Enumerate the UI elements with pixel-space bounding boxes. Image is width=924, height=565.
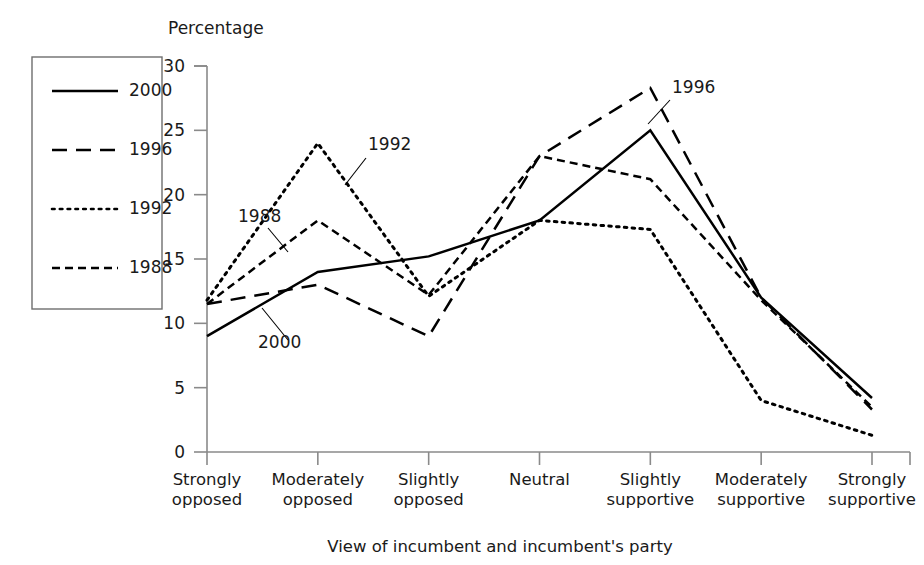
y-tick-label-5: 5: [174, 378, 185, 398]
series-line-1988: [207, 156, 872, 407]
y-tick-label-30: 30: [163, 56, 185, 76]
y-axis-title: Percentage: [168, 18, 264, 38]
y-tick-label-0: 0: [174, 442, 185, 462]
chart-axes: [194, 66, 910, 465]
annotation-label-1996: 1996: [672, 77, 715, 97]
annotation-leader-1992: [345, 158, 366, 185]
data-series-group: [207, 88, 872, 435]
annotation-label-1992: 1992: [368, 134, 411, 154]
series-line-2000: [207, 130, 872, 398]
x-tick-label-1: Moderatelyopposed: [271, 470, 364, 509]
x-axis-ticks: [207, 452, 910, 465]
y-tick-label-25: 25: [163, 120, 185, 140]
x-tick-label-4: Slightlysupportive: [606, 470, 694, 509]
annotation-label-1988: 1988: [238, 206, 281, 226]
x-tick-label-6: Stronglysupportive: [828, 470, 916, 509]
x-tick-label-5: Moderatelysupportive: [715, 470, 808, 509]
legend-label-1996: 1996: [129, 139, 172, 159]
x-tick-label-2: Slightlyopposed: [393, 470, 463, 509]
x-axis-tick-labels: StronglyopposedModeratelyopposedSlightly…: [172, 470, 916, 509]
x-tick-label-3: Neutral: [509, 470, 570, 489]
series-line-1996: [207, 88, 872, 410]
chart-canvas: Percentage 051015202530 StronglyopposedM…: [0, 0, 924, 565]
series-line-1992: [207, 143, 872, 435]
x-tick-label-0: Stronglyopposed: [172, 470, 242, 509]
line-chart: Percentage 051015202530 StronglyopposedM…: [0, 0, 924, 565]
annotation-leader-1988: [268, 228, 288, 252]
chart-legend: 2000199619921988: [32, 57, 172, 309]
y-axis-ticks: [194, 66, 207, 452]
legend-label-1992: 1992: [129, 198, 172, 218]
y-tick-label-10: 10: [163, 313, 185, 333]
x-axis-title: View of incumbent and incumbent's party: [327, 537, 673, 556]
legend-label-1988: 1988: [129, 257, 172, 277]
series-annotations: 1992198820001996: [238, 77, 715, 352]
annotation-label-2000: 2000: [258, 332, 301, 352]
legend-label-2000: 2000: [129, 80, 172, 100]
